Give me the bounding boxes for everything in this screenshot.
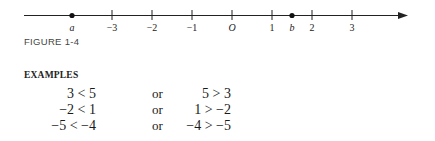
number-line-point bbox=[289, 13, 294, 18]
examples-heading: EXAMPLES bbox=[24, 70, 78, 80]
example-right: 1 > −2 bbox=[169, 102, 231, 118]
number-line-point-label: b bbox=[290, 22, 295, 33]
example-connector: or bbox=[152, 102, 163, 118]
number-line-tick-label: 2 bbox=[310, 22, 315, 33]
number-line-tick-label: −1 bbox=[187, 22, 198, 33]
number-line-tick-label: −2 bbox=[147, 22, 158, 33]
example-left: −2 < 1 bbox=[34, 102, 96, 118]
number-line-tick-label: 3 bbox=[350, 22, 355, 33]
example-right: 5 > 3 bbox=[169, 86, 231, 102]
number-line-tick-label: −3 bbox=[107, 22, 118, 33]
number-line-point bbox=[69, 13, 74, 18]
example-connector: or bbox=[152, 86, 163, 102]
number-line-arrow-icon bbox=[398, 12, 408, 19]
example-connector: or bbox=[152, 118, 163, 134]
example-right: −4 > −5 bbox=[169, 118, 231, 134]
number-line-point-label: a bbox=[70, 22, 75, 33]
number-line: −3−2−1O123 ab bbox=[0, 0, 435, 34]
example-left: −5 < −4 bbox=[34, 118, 96, 134]
example-left: 3 < 5 bbox=[34, 86, 96, 102]
figure-label: FIGURE 1-4 bbox=[24, 36, 79, 47]
number-line-tick-label: 1 bbox=[270, 22, 275, 33]
number-line-tick-label: O bbox=[228, 22, 235, 33]
